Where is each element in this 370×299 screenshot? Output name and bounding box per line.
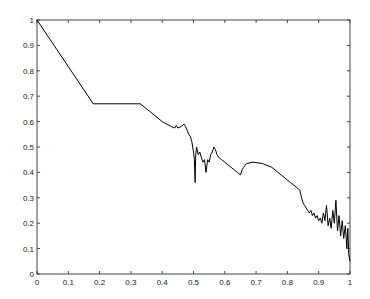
x-tick-label: 0.5 (188, 278, 200, 287)
x-tick-label: 0.7 (251, 278, 263, 287)
y-tick-label: 0.3 (23, 194, 35, 203)
x-tick-label: 0.8 (282, 278, 294, 287)
y-tick-label: 0.2 (23, 219, 35, 228)
y-tick-label: 0.5 (23, 143, 35, 152)
y-axis-tick-labels: 00.10.20.30.40.50.60.70.80.91 (23, 16, 35, 279)
x-axis-tick-labels: 00.10.20.30.40.50.60.70.80.91 (35, 278, 353, 287)
x-tick-label: 0.6 (219, 278, 231, 287)
plot-frame (37, 20, 350, 274)
y-tick-label: 0 (30, 270, 35, 279)
y-tick-label: 0.7 (23, 92, 35, 101)
x-tick-label: 1 (348, 278, 353, 287)
x-tick-label: 0.1 (63, 278, 75, 287)
x-tick-label: 0.9 (313, 278, 325, 287)
y-tick-label: 0.8 (23, 67, 35, 76)
axis-ticks (37, 20, 350, 274)
y-tick-label: 0.1 (23, 245, 35, 254)
data-line (37, 20, 350, 261)
y-tick-label: 0.6 (23, 118, 35, 127)
x-tick-label: 0 (35, 278, 40, 287)
y-tick-label: 0.9 (23, 41, 35, 50)
y-tick-label: 0.4 (23, 168, 35, 177)
x-tick-label: 0.3 (125, 278, 137, 287)
x-tick-label: 0.4 (157, 278, 169, 287)
line-chart: 00.10.20.30.40.50.60.70.80.91 00.10.20.3… (0, 0, 370, 299)
x-tick-label: 0.2 (94, 278, 106, 287)
y-tick-label: 1 (30, 16, 35, 25)
